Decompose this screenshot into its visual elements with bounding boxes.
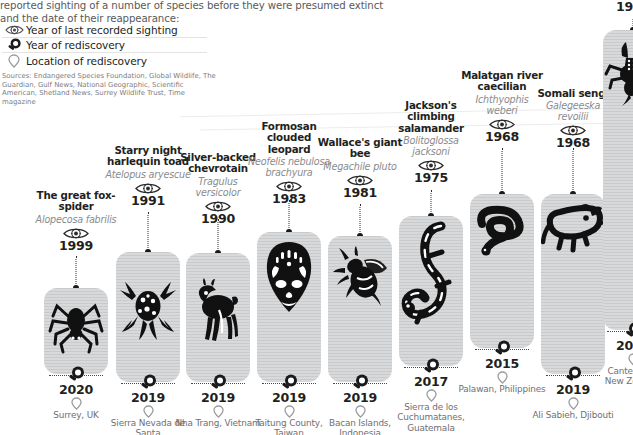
- rediscovery-marker: [457, 340, 547, 357]
- rediscovery-year: 2004: [602, 339, 633, 353]
- toad-silhouette: [119, 280, 177, 342]
- species-column-nz-beetle: 1922: [602, 0, 633, 435]
- eye-icon: [2, 24, 26, 36]
- species-card: [186, 253, 250, 382]
- chevrotain-silhouette: [188, 277, 248, 347]
- last-sighting-year: 1981: [317, 186, 403, 199]
- map-pin-icon: [2, 54, 26, 68]
- salamander-silhouette: [401, 222, 461, 332]
- species-card: [603, 30, 633, 330]
- species-card: [257, 232, 321, 382]
- bee-silhouette: [331, 246, 389, 316]
- rediscovery-marker: [602, 322, 633, 339]
- last-sighting-year: 1975: [388, 171, 474, 184]
- species-card: [470, 194, 534, 348]
- leopard-face-silhouette: [261, 240, 317, 314]
- beetle-silhouette: [604, 40, 633, 110]
- last-sighting-year: 1922: [602, 0, 633, 13]
- species-card: [399, 216, 463, 366]
- magnifier-icon: [2, 38, 26, 52]
- sengi-silhouette: [542, 202, 604, 258]
- species-card: [541, 194, 605, 374]
- caecilian-silhouette: [472, 204, 532, 260]
- species-card: [116, 252, 180, 382]
- species-card: [328, 236, 392, 382]
- infographic-root: reported sighting of a number of species…: [0, 0, 633, 435]
- species-column-somali-sengi: Somali sengi Galegeeska revoilii 1968: [535, 0, 611, 435]
- species-column-great-fox-spider: The great fox-spider Alopecosa fabrilis …: [38, 0, 114, 435]
- map-pin-icon: [602, 353, 633, 366]
- last-sighting-year: 1999: [33, 239, 119, 252]
- rediscovery-location: Canterbury, New Zealand: [602, 366, 633, 387]
- species-latin-name: Alopecosa fabrilis: [33, 214, 119, 225]
- species-card: [44, 288, 108, 374]
- eye-icon: [33, 227, 119, 239]
- rediscovery-location: Sierra de los Cuchumatanes, Guatemala: [386, 402, 476, 433]
- species-column-silver-backed-chevrotain: Silver-backed chevrotain Tragulus versic…: [180, 0, 256, 435]
- spider-silhouette: [47, 294, 105, 356]
- species-column-formosan-clouded-leopard: Formosan clouded leopard Neofelis nebulo…: [251, 0, 327, 435]
